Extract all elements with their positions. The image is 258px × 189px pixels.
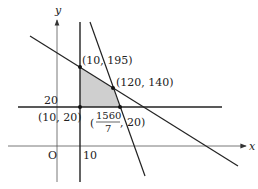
vertex-dot <box>78 105 82 109</box>
vertex-dot <box>118 105 122 109</box>
vertex-label-10-195: (10, 195) <box>82 54 133 67</box>
origin-label: O <box>48 149 57 162</box>
y-tick-label: 20 <box>44 94 58 107</box>
svg-text:1560: 1560 <box>96 110 121 121</box>
x-tick-label: 10 <box>83 149 97 162</box>
vertex-label-120-140: (120, 140) <box>116 76 174 89</box>
svg-text:, 20): , 20) <box>120 116 145 129</box>
diagram-canvas: y x O 10 20 (10, 195) (120, 140) (10, 20… <box>0 0 258 189</box>
x-axis-label: x <box>249 140 256 153</box>
y-axis-label: y <box>54 4 62 17</box>
svg-text:(: ( <box>90 117 94 130</box>
vertex-dot <box>111 86 115 90</box>
vertex-label-10-20: (10, 20) <box>38 111 82 124</box>
svg-text:7: 7 <box>105 123 111 134</box>
vertex-label-1560-7-20: ( 1560 7 , 20) <box>90 110 145 134</box>
